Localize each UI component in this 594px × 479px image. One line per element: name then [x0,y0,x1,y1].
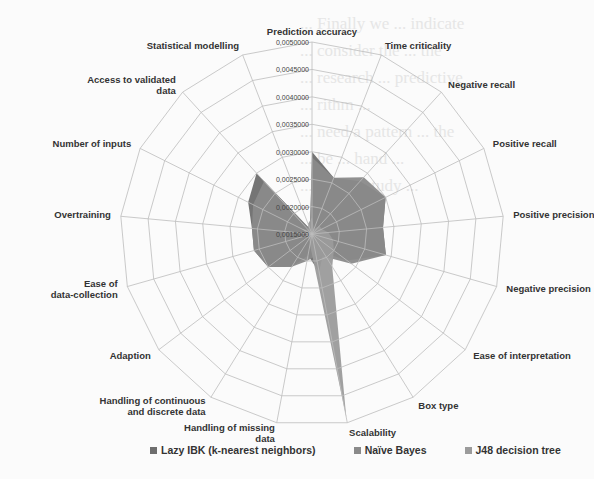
axis-label: Adaption [110,350,151,361]
tick-label: 0,0025000 [276,176,309,183]
tick-label: 0,0045000 [276,66,309,73]
legend-item-j48: J48 decision tree [465,444,561,456]
axis-label: Number of inputs [53,138,132,149]
axis-label: Positive recall [493,138,557,149]
axis-label: Positive precision [513,209,594,220]
tick-label: 0,0020000 [276,204,309,211]
axis-label: Handling of missingdata [184,422,275,444]
legend-label: J48 decision tree [476,444,561,456]
legend-label: Lazy IBK (k-nearest neighbors) [161,444,316,456]
radar-chart: 0,00150000,00200000,00250000,00300000,00… [0,0,594,479]
axis-label: Time criticality [385,40,452,51]
axis-label: Ease ofdata-collection [51,278,119,300]
grid-spoke [159,234,312,350]
axis-label: Box type [418,400,458,411]
axis-label: Access to validateddata [87,74,176,96]
chart-legend: Lazy IBK (k-nearest neighbors) Naïve Bay… [150,444,561,456]
axis-label: Negative recall [448,79,515,90]
tick-label: 0,0040000 [276,94,309,101]
grid-spoke [140,148,312,234]
axis-label: Negative precision [506,283,591,294]
legend-label: Naïve Bayes [365,444,427,456]
axis-label: Ease of interpretation [473,350,571,361]
grid-spoke [183,92,312,234]
axis-label: Overtraining [54,209,111,220]
legend-swatch-icon [354,447,361,454]
legend-swatch-icon [465,447,472,454]
tick-label: 0,0050000 [276,39,309,46]
legend-swatch-icon [150,447,157,454]
tick-label: 0,0030000 [276,149,309,156]
axis-label: Prediction accuracy [267,26,358,37]
axis-label: Handling of continuousand discrete data [100,395,207,417]
axis-label: Statistical modelling [147,40,240,51]
axis-label: Scalability [349,427,397,438]
legend-item-lazy-ibk: Lazy IBK (k-nearest neighbors) [150,444,316,456]
legend-item-naive-bayes: Naïve Bayes [354,444,427,456]
tick-label: 0,0035000 [276,121,309,128]
tick-label: 0,0015000 [276,231,309,238]
